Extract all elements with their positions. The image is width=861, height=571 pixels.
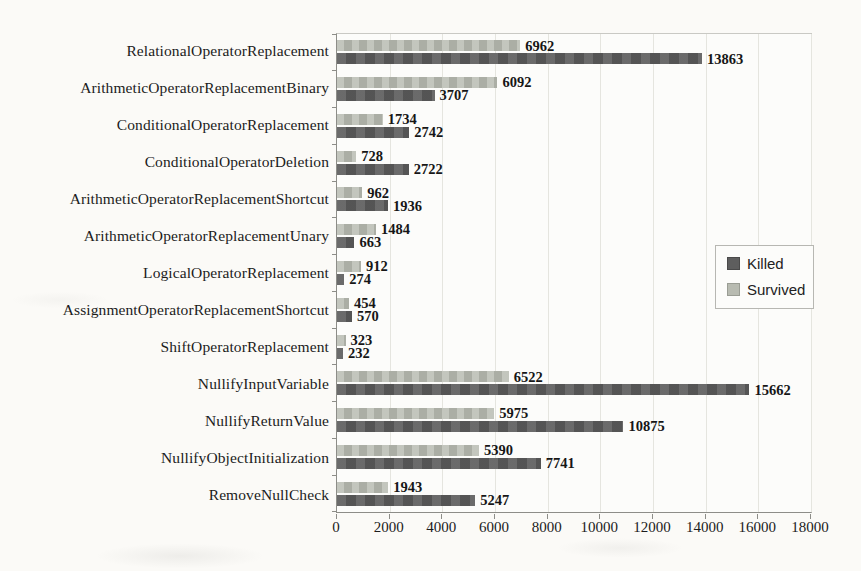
y-axis-tick: [332, 438, 337, 439]
x-axis-tick: [547, 514, 548, 519]
category-label: ConditionalOperatorDeletion: [0, 144, 336, 181]
value-label: 10875: [628, 419, 664, 434]
x-axis-tick-label: 14000: [686, 519, 724, 536]
y-axis-tick: [332, 328, 337, 329]
y-axis-tick: [332, 70, 337, 71]
bar-group: 53907741: [337, 438, 811, 475]
y-axis-tick: [332, 254, 337, 255]
bar-survived: [337, 40, 520, 51]
bar-line-killed: 2742: [337, 127, 811, 138]
category-axis-labels: RelationalOperatorReplacementArithmeticO…: [0, 33, 336, 513]
value-label: 2722: [414, 162, 443, 177]
bar-survived: [337, 371, 509, 382]
value-label: 6092: [502, 75, 531, 90]
bar-line-killed: 3707: [337, 90, 811, 101]
x-axis-tick-label: 12000: [633, 519, 671, 536]
y-axis-tick: [332, 181, 337, 182]
x-axis-tick: [389, 514, 390, 519]
bar-line-killed: 13863: [337, 53, 811, 64]
category-label: RelationalOperatorReplacement: [0, 33, 336, 70]
bar-killed: [337, 495, 475, 506]
survived-swatch-icon: [727, 283, 740, 296]
x-axis-tick: [336, 514, 337, 519]
value-label: 13863: [707, 52, 743, 67]
y-axis-tick: [332, 34, 337, 35]
legend-label-survived: Survived: [747, 282, 805, 297]
bar-survived: [337, 482, 388, 493]
bar-group: 696213863: [337, 34, 811, 71]
value-label: 1734: [388, 112, 417, 127]
bar-survived: [337, 298, 349, 309]
category-label: ShiftOperatorReplacement: [0, 328, 336, 365]
category-label: ArithmeticOperatorReplacementShortcut: [0, 181, 336, 218]
bar-killed: [337, 237, 354, 248]
bar-line-survived: 1734: [337, 114, 811, 125]
x-axis-tick-label: 2000: [374, 519, 404, 536]
bar-line-survived: 962: [337, 187, 811, 198]
bar-group: 597510875: [337, 402, 811, 439]
x-axis-tick: [441, 514, 442, 519]
bar-killed: [337, 421, 623, 432]
bar-line-survived: 728: [337, 151, 811, 162]
value-label: 15662: [754, 383, 790, 398]
bar-killed: [337, 164, 409, 175]
bar-line-survived: 1484: [337, 224, 811, 235]
y-axis-tick: [332, 217, 337, 218]
bar-killed: [337, 53, 702, 64]
category-label: ArithmeticOperatorReplacementBinary: [0, 70, 336, 107]
x-axis-tick-label: 16000: [739, 519, 777, 536]
value-label: 962: [367, 186, 389, 201]
value-label: 232: [348, 346, 370, 361]
y-axis-tick: [332, 401, 337, 402]
bar-group: 19435247: [337, 475, 811, 512]
bar-chart-figure: RelationalOperatorReplacementArithmeticO…: [0, 0, 861, 571]
bar-line-killed: 15662: [337, 384, 811, 395]
value-label: 7741: [546, 456, 575, 471]
x-axis-tick-label: 4000: [426, 519, 456, 536]
bar-killed: [337, 458, 541, 469]
y-axis-tick: [332, 144, 337, 145]
category-label: ConditionalOperatorReplacement: [0, 107, 336, 144]
plot-area: 6962138636092370717342742728272296219361…: [336, 33, 812, 513]
category-label: NullifyInputVariable: [0, 365, 336, 402]
value-label: 570: [357, 309, 379, 324]
legend-item-killed: Killed: [727, 256, 805, 271]
bar-survived: [337, 151, 356, 162]
value-label: 6962: [525, 39, 554, 54]
category-label: ArithmeticOperatorReplacementUnary: [0, 218, 336, 255]
bar-line-survived: 6522: [337, 371, 811, 382]
bar-killed: [337, 384, 749, 395]
bar-group: 17342742: [337, 108, 811, 145]
bar-killed: [337, 311, 352, 322]
bar-line-survived: 323: [337, 335, 811, 346]
bar-survived: [337, 77, 497, 88]
value-label: 5390: [484, 443, 513, 458]
x-axis-tick: [652, 514, 653, 519]
bar-survived: [337, 408, 494, 419]
value-label: 728: [361, 149, 383, 164]
value-label: 1484: [381, 222, 410, 237]
category-label: NullifyObjectInitialization: [0, 439, 336, 476]
bar-line-survived: 6092: [337, 77, 811, 88]
bar-survived: [337, 445, 479, 456]
y-axis-tick: [332, 107, 337, 108]
x-axis-tick-label: 8000: [532, 519, 562, 536]
bar-killed: [337, 127, 409, 138]
chart-body: RelationalOperatorReplacementArithmeticO…: [0, 33, 861, 513]
value-label: 274: [349, 272, 371, 287]
bar-group: 652215662: [337, 365, 811, 402]
bar-line-killed: 10875: [337, 421, 811, 432]
bar-killed: [337, 90, 435, 101]
bar-group: 323232: [337, 328, 811, 365]
bar-line-survived: 6962: [337, 40, 811, 51]
x-axis-tick-label: 0: [332, 519, 340, 536]
category-label: AssignmentOperatorReplacementShortcut: [0, 291, 336, 328]
x-axis-tick: [810, 514, 811, 519]
bar-group: 7282722: [337, 144, 811, 181]
x-axis-tick-label: 10000: [581, 519, 619, 536]
y-axis-tick: [332, 364, 337, 365]
legend: Killed Survived: [715, 245, 814, 309]
bar-line-killed: 1936: [337, 200, 811, 211]
bar-line-killed: 2722: [337, 164, 811, 175]
bar-group: 9621936: [337, 181, 811, 218]
